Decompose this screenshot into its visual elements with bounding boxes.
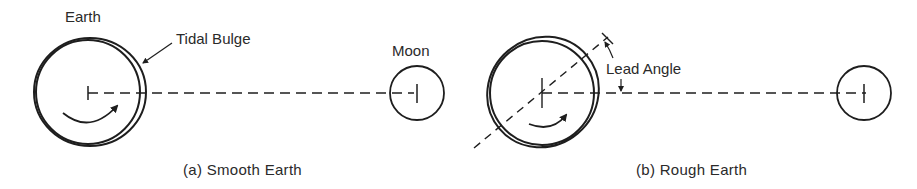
tidal-bulge-outline (34, 38, 146, 146)
moon-label: Moon (392, 42, 430, 59)
earth-label: Earth (65, 8, 101, 25)
caption-b: (b) Rough Earth (636, 161, 747, 178)
rotation-arrow-icon (63, 106, 117, 122)
tidal-bulge-outline (465, 14, 622, 170)
bulge-axis-end-tick (602, 33, 613, 44)
tidal-bulge-diagram: Earth Tidal Bulge Moon (a) Smooth Earth … (0, 0, 917, 189)
lead-angle-label: Lead Angle (606, 60, 681, 77)
bulge-axis (474, 37, 608, 148)
tidal-bulge-leader (143, 43, 172, 63)
panel-a-smooth-earth: Earth Tidal Bulge Moon (a) Smooth Earth (34, 8, 444, 178)
tidal-bulge-label: Tidal Bulge (176, 30, 251, 47)
lead-angle-arrow-upper (605, 42, 613, 58)
caption-a: (a) Smooth Earth (183, 161, 302, 178)
panel-b-rough-earth: Lead Angle (b) Rough Earth (465, 14, 891, 178)
rotation-arrow-icon (529, 115, 566, 127)
